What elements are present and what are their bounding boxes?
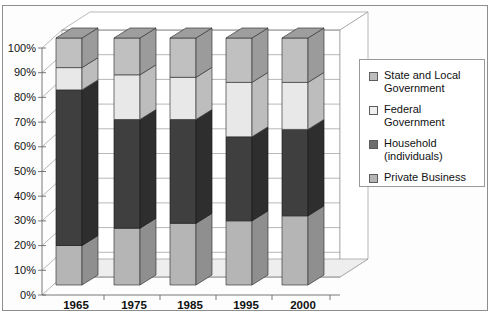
y-tick-label: 40%	[14, 190, 36, 202]
y-tick-label: 90%	[14, 66, 36, 78]
legend-label-private-business: Private Business	[384, 171, 466, 184]
legend-label-household: Household (individuals)	[384, 137, 443, 162]
y-tick-label: 70%	[14, 116, 36, 128]
legend-item-private-business[interactable]: Private Business	[369, 171, 476, 184]
x-tick-label-2000: 2000	[290, 299, 316, 311]
bar-1985	[170, 28, 212, 285]
y-tick-label: 60%	[14, 140, 36, 152]
x-tick-label-1995: 1995	[233, 299, 259, 311]
legend-item-household[interactable]: Household (individuals)	[369, 137, 476, 162]
x-axis-labels: 1965 1975 1985 1995 2000	[63, 299, 316, 311]
y-tick-label: 10%	[14, 264, 36, 276]
legend-swatch-private-business-icon	[369, 174, 378, 183]
y-tick-label: 100%	[8, 42, 36, 54]
y-tick-label: 20%	[14, 239, 36, 251]
x-tick-label-1975: 1975	[121, 299, 147, 311]
legend-swatch-federal-icon	[369, 106, 378, 115]
chart-legend: State and Local Government Federal Gover…	[359, 59, 485, 187]
legend-label-federal: Federal Government	[384, 103, 445, 128]
y-tick-label: 30%	[14, 214, 36, 226]
legend-swatch-state-local-icon	[369, 72, 378, 81]
x-tick-label-1985: 1985	[177, 299, 203, 311]
y-tick-label: 80%	[14, 91, 36, 103]
chart-screenshot: .seg-front-pb { fill:#b5b5b5; stroke:#3a…	[0, 0, 492, 318]
y-axis-labels: 100% 90% 80% 70% 60% 50% 40% 30% 20% 10%…	[8, 42, 36, 301]
legend-item-federal-government[interactable]: Federal Government	[369, 103, 476, 128]
y-tick-label: 0%	[20, 289, 36, 301]
bar-1975	[114, 28, 156, 285]
legend-item-state-and-local-government[interactable]: State and Local Government	[369, 69, 476, 94]
y-tick-label: 50%	[14, 165, 36, 177]
legend-label-state-local: State and Local Government	[384, 69, 460, 94]
x-tick-label-1965: 1965	[63, 299, 89, 311]
bar-2000	[282, 28, 324, 285]
bar-1965	[56, 28, 98, 285]
bar-1995	[226, 28, 268, 285]
legend-swatch-household-icon	[369, 140, 378, 149]
